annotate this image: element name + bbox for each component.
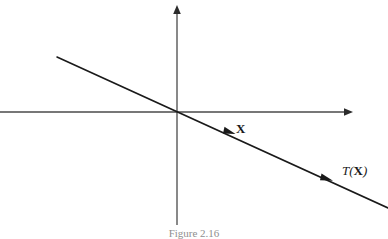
vector-tx-label: T(X) [342,164,367,177]
linear-transformation-diagram [0,0,388,239]
y-axis [173,5,181,225]
vector-x-label: X [236,122,245,135]
vector-tx-argument: X [354,163,363,178]
vector-tx-arrowhead-icon [320,174,333,181]
x-axis-arrowhead-icon [344,108,353,116]
transformation-line [57,57,388,208]
figure-caption: Figure 2.16 [0,228,388,239]
figure-container: X T(X) Figure 2.16 [0,0,388,239]
vector-tx-close-paren: ) [363,163,367,178]
vector-x-arrowhead-icon [223,127,236,134]
y-axis-arrowhead-icon [173,5,181,14]
